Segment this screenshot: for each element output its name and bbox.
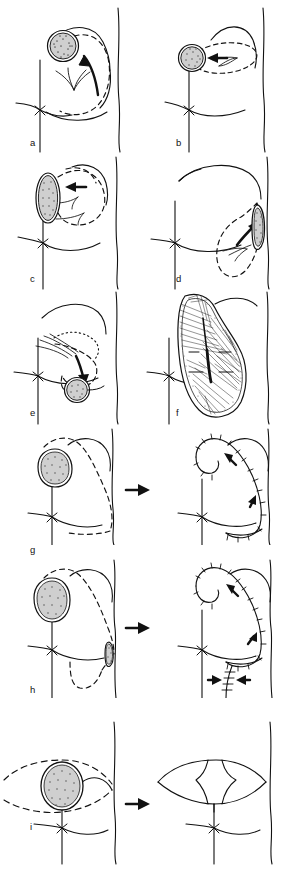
panel-i-after [158,722,272,864]
inframammary-fold [52,650,104,660]
lesion-marker [38,449,72,487]
panel-f [145,290,290,425]
torso-flank-contour [114,560,116,698]
figure-canvas: a [0,0,290,870]
panel-h [0,558,290,698]
glandular-pillar-lines [223,245,251,261]
inframammary-fold [52,517,102,527]
lesion-marker [36,173,60,223]
inframammary-fold [214,828,260,834]
panel-label-e: e [30,408,35,418]
panel-b [145,0,290,155]
inframammary-fold [46,112,107,120]
lesion-marker [65,378,90,403]
panel-label-a: a [30,138,35,148]
dashed-excision-outline [56,168,105,225]
opposing-arrow-right [236,675,250,685]
lesion-marker [179,45,206,72]
panel-label-g: g [30,545,35,555]
panel-h-after [178,560,272,698]
lesion-marker [41,762,83,810]
torso-flank-contour [267,157,269,289]
torso-flank-contour [268,429,270,545]
glandular-pillar-lines [36,334,78,358]
inframammary-fold [175,243,241,252]
panel-g [0,425,290,545]
lesion-marker [252,205,265,249]
closed-flap-upper [158,760,266,782]
panel-i-before [4,722,116,864]
panel-g-after [178,429,270,545]
panel-a [0,0,145,155]
mobilisation-arrow-upper [224,453,236,465]
opposing-arrow-left [208,675,222,685]
panel-c [0,155,145,290]
flap-seam-left [196,760,208,804]
torso-flank-contour [116,292,118,424]
torso-flank-contour [114,722,116,864]
inframammary-fold [202,517,256,526]
panel-label-b: b [176,138,181,148]
lesion-marker [48,31,79,62]
closed-flap-right [214,782,266,804]
inframammary-fold [62,828,108,834]
panel-label-d: d [176,274,181,284]
mobilisation-arrow-upper [226,584,238,596]
panel-d [145,155,290,290]
panel-label-f: f [176,408,179,418]
mobilisation-arrow-lower [248,632,257,644]
secondary-lesion-marker [105,642,113,667]
panel-i [0,700,290,865]
panel-e [0,290,145,425]
torso-flank-contour [116,157,118,289]
flap-seam-right [222,760,236,804]
torso-flank-contour [118,8,120,152]
panel-label-c: c [30,274,35,284]
inframammary-fold [43,243,100,251]
torso-flank-contour [270,722,272,864]
torso-flank-contour [263,8,265,152]
closed-flap-left [158,782,214,804]
torso-flank-contour [270,560,272,698]
panel-label-h: h [30,685,35,695]
inframammary-fold [189,110,245,116]
medial-arrow [65,182,86,192]
inframammary-fold [202,650,256,659]
transition-arrow [126,798,150,810]
panel-label-i: i [30,822,32,832]
panel-h-before [28,560,116,698]
mobilisation-arrow-lower [248,495,256,507]
lesion-marker [34,578,70,622]
torso-flank-contour [112,429,114,545]
glandular-pillar-lines [56,68,90,90]
transition-arrow [126,484,150,496]
panel-g-before [28,429,114,545]
elevated-flap [178,295,246,417]
medial-arrow [207,53,227,63]
torso-flank-contour [267,292,269,424]
rotation-arrow [79,56,98,95]
transition-arrow [126,622,150,634]
